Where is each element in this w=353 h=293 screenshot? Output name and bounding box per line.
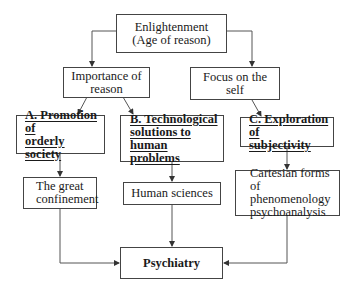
node-exploration-of-subjectivity: C. Exploration of subjectivity: [240, 117, 334, 147]
node-psychiatry-label: Psychiatry: [143, 257, 200, 270]
node-importance-of-reason-label: Importance of reason: [71, 70, 141, 96]
node-psychiatry: Psychiatry: [120, 247, 223, 279]
node-technological-label: B. Technological solutions to human prob…: [130, 113, 219, 165]
node-exploration-label: C. Exploration of subjectivity: [249, 113, 329, 152]
node-promotion-label: A. Promotion of orderly society: [25, 109, 100, 161]
node-cartesian-label: Cartesian forms of phenomenology psychoa…: [250, 167, 335, 219]
node-human-sciences-label: Human sciences: [131, 187, 213, 200]
node-focus-on-self: Focus on the self: [190, 67, 280, 100]
node-great-confinement-label: The great confinement: [36, 180, 98, 206]
node-technological-solutions: B. Technological solutions to human prob…: [120, 115, 224, 162]
node-importance-of-reason: Importance of reason: [63, 67, 150, 98]
node-cartesian-forms: Cartesian forms of phenomenology psychoa…: [235, 170, 340, 216]
node-great-confinement: The great confinement: [23, 177, 97, 209]
node-human-sciences: Human sciences: [123, 182, 221, 205]
node-enlightenment-label: Enlightenment (Age of reason): [132, 21, 210, 47]
node-promotion-of-orderly-society: A. Promotion of orderly society: [16, 115, 105, 154]
node-enlightenment: Enlightenment (Age of reason): [116, 14, 227, 53]
node-focus-on-self-label: Focus on the self: [203, 71, 267, 97]
